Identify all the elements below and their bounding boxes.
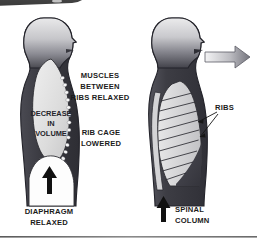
- label-muscles-between-ribs: MUSCLES BETWEEN RIBS RELAXED: [71, 71, 130, 102]
- label-muscles-line-2: BETWEEN: [80, 82, 119, 91]
- label-decrease-line-2: IN: [47, 119, 54, 128]
- top-banner-tab: [0, 0, 89, 7]
- label-spinal-column: SPINAL COLUMN: [175, 205, 210, 225]
- label-ribcage-line-1: RIB CAGE: [82, 128, 121, 137]
- breathing-diagram-figure: DECREASE IN VOLUME MUSCLES BETWEEN RIBS …: [0, 0, 257, 247]
- label-muscles-line-1: MUSCLES: [81, 71, 120, 80]
- label-muscles-line-3: RIBS RELAXED: [71, 93, 130, 102]
- label-rib-cage-lowered: RIB CAGE LOWERED: [81, 128, 122, 148]
- bottom-divider: [0, 236, 257, 238]
- label-diaphragm-relaxed: DIAPHRAGM RELAXED: [25, 207, 74, 227]
- label-decrease-line-3: VOLUME: [35, 129, 67, 138]
- diagram-canvas: DECREASE IN VOLUME MUSCLES BETWEEN RIBS …: [0, 0, 257, 247]
- label-decrease-line-1: DECREASE: [30, 109, 71, 118]
- label-spinal-line-1: SPINAL: [175, 205, 204, 214]
- label-diaphragm-line-1: DIAPHRAGM: [25, 207, 74, 216]
- label-ribs: RIBS: [215, 103, 234, 112]
- label-ribs-text: RIBS: [215, 103, 234, 112]
- label-diaphragm-line-2: RELAXED: [30, 218, 68, 227]
- exhale-air-arrow: [205, 46, 250, 68]
- label-spinal-line-2: COLUMN: [175, 216, 210, 225]
- label-ribcage-line-2: LOWERED: [81, 139, 122, 148]
- left-panel-exhalation: DECREASE IN VOLUME MUSCLES BETWEEN RIBS …: [21, 18, 130, 227]
- right-panel-ribcage: RIBS SPINAL COLUMN: [149, 18, 250, 225]
